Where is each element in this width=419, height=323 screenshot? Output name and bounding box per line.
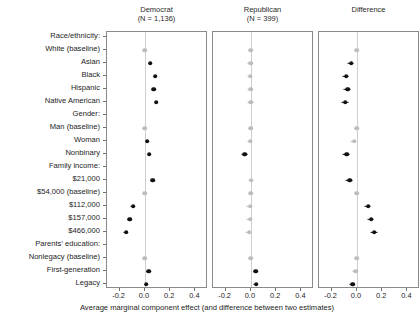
estimate-dot [355, 126, 360, 131]
x-tick-label-2: 0.2 [270, 292, 280, 300]
panel-title-name: Difference [318, 6, 419, 15]
estimate-point [144, 258, 145, 259]
row-label-man-baseline: Man (baseline) [50, 123, 100, 131]
estimate-point [356, 128, 357, 129]
estimate-dot [352, 139, 357, 144]
row-label-family-income: Family income: [49, 162, 100, 170]
estimate-dot [128, 217, 133, 222]
estimate-point [251, 180, 252, 181]
estimate-point [250, 63, 251, 64]
panel-title-difference: Difference [318, 6, 419, 15]
estimate-dot [372, 230, 377, 235]
estimate-dot [147, 152, 152, 157]
estimate-point [351, 63, 352, 64]
row-label-54-000-baseline: $54,000 (baseline) [37, 188, 100, 196]
estimate-point [356, 258, 357, 259]
estimate-point [144, 128, 145, 129]
estimate-dot [343, 100, 348, 105]
estimate-point [250, 50, 251, 51]
estimate-point [255, 271, 256, 272]
estimate-point [133, 206, 134, 207]
estimate-dot [248, 217, 253, 222]
estimate-dot [347, 178, 352, 183]
estimate-dot [143, 191, 148, 196]
x-tick-label-2: 0.2 [164, 292, 174, 300]
estimate-point [368, 206, 369, 207]
estimate-dot [344, 152, 349, 157]
zero-reference-line [357, 32, 358, 287]
estimate-point [250, 258, 251, 259]
estimate-dot [248, 100, 253, 105]
estimate-dot [131, 204, 136, 209]
estimate-dot [151, 87, 156, 92]
x-axis-title: Average marginal component effect (and d… [0, 303, 414, 312]
row-label-gender: Gender: [73, 110, 100, 118]
x-tick-label-3: 0.4 [401, 292, 411, 300]
estimate-point [345, 102, 346, 103]
estimate-dot [148, 61, 153, 66]
estimate-point [349, 180, 350, 181]
estimate-point [152, 180, 153, 181]
panel-title-subtitle: (N = 1,136) [106, 15, 207, 24]
estimate-dot [355, 48, 360, 53]
row-label-21-000: $21,000 [73, 175, 100, 183]
estimate-point [371, 219, 372, 220]
estimate-point [250, 128, 251, 129]
estimate-dot [353, 269, 358, 274]
estimate-point [250, 102, 251, 103]
estimate-dot [143, 48, 148, 53]
estimate-point [144, 193, 145, 194]
estimate-point [250, 141, 251, 142]
panel-title-republican: Republican(N = 399) [212, 6, 313, 23]
estimate-point [346, 154, 347, 155]
estimate-dot [249, 178, 254, 183]
estimate-dot [351, 282, 356, 287]
estimate-point [354, 141, 355, 142]
estimate-point [155, 76, 156, 77]
panel-difference [318, 31, 419, 288]
estimate-point [356, 50, 357, 51]
estimate-point [249, 232, 250, 233]
estimate-dot [144, 282, 149, 287]
estimate-dot [248, 74, 253, 79]
estimate-point [250, 76, 251, 77]
row-label-woman: Woman [74, 136, 100, 144]
estimate-dot [249, 48, 254, 53]
estimate-dot [154, 100, 159, 105]
estimate-point [129, 219, 130, 220]
estimate-dot [143, 126, 148, 131]
estimate-point [347, 89, 348, 90]
estimate-point [250, 219, 251, 220]
x-tick-label-3: 0.4 [189, 292, 199, 300]
x-tick-label-3: 0.4 [295, 292, 305, 300]
x-tick-label-0: -0.2 [324, 292, 337, 300]
estimate-dot [369, 217, 374, 222]
row-label-white-baseline: White (baseline) [45, 45, 100, 53]
estimate-dot [145, 139, 150, 144]
estimate-dot [355, 191, 360, 196]
x-tick-label-0: -0.2 [218, 292, 231, 300]
row-label-native-american: Native American [45, 97, 100, 105]
estimate-dot [150, 178, 155, 183]
row-label-hispanic: Hispanic [71, 84, 100, 92]
estimate-dot [143, 256, 148, 261]
x-tick-label-1: 0.0 [245, 292, 255, 300]
estimate-point [256, 284, 257, 285]
estimate-dot [254, 269, 259, 274]
estimate-dot [355, 256, 360, 261]
estimate-dot [345, 87, 350, 92]
panel-title-subtitle: (N = 399) [212, 15, 313, 24]
row-label-race-ethnicity: Race/ethnicity: [50, 32, 100, 40]
zero-reference-line [145, 32, 146, 287]
estimate-dot [248, 61, 253, 66]
estimate-point [356, 193, 357, 194]
estimate-dot [349, 61, 354, 66]
x-tick-label-1: 0.0 [351, 292, 361, 300]
estimate-dot [344, 74, 349, 79]
estimate-point [250, 206, 251, 207]
panel-democrat [106, 31, 207, 288]
x-tick-label-1: 0.0 [139, 292, 149, 300]
estimate-point [156, 102, 157, 103]
estimate-point [148, 271, 149, 272]
estimate-point [147, 141, 148, 142]
